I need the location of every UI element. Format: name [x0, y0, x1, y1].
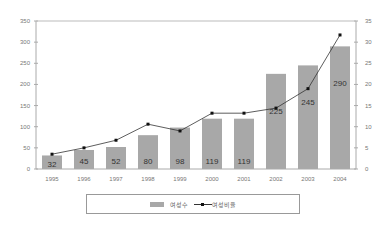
- svg-text:1996: 1996: [77, 176, 91, 182]
- left-axis: 050100150200250300350: [20, 18, 38, 172]
- svg-text:50: 50: [23, 145, 30, 151]
- bar-legend-label: 여성수: [170, 200, 188, 209]
- svg-text:250: 250: [20, 60, 31, 66]
- svg-text:0: 0: [365, 166, 369, 172]
- svg-text:80: 80: [144, 157, 153, 166]
- svg-text:1999: 1999: [173, 176, 187, 182]
- svg-text:5: 5: [365, 145, 369, 151]
- svg-text:290: 290: [333, 79, 347, 88]
- svg-text:35: 35: [365, 18, 372, 24]
- svg-text:150: 150: [20, 103, 31, 109]
- svg-text:20: 20: [365, 81, 372, 87]
- svg-text:350: 350: [20, 18, 31, 24]
- svg-text:1995: 1995: [45, 176, 59, 182]
- svg-text:100: 100: [20, 124, 31, 130]
- svg-text:2003: 2003: [301, 176, 315, 182]
- svg-text:98: 98: [176, 157, 185, 166]
- svg-text:2000: 2000: [205, 176, 219, 182]
- right-axis: 05101520253035: [354, 18, 372, 172]
- line-series: [51, 33, 342, 155]
- svg-text:10: 10: [365, 124, 372, 130]
- svg-text:25: 25: [365, 60, 372, 66]
- bar-series: 3245528098119119225245290: [42, 46, 350, 169]
- svg-text:300: 300: [20, 39, 31, 45]
- line-legend-label: 여성비율: [212, 200, 236, 209]
- x-axis-labels: 1995199619971998199920002001200220032004: [45, 176, 347, 182]
- svg-text:0: 0: [27, 166, 31, 172]
- svg-text:245: 245: [301, 98, 315, 107]
- svg-text:32: 32: [48, 160, 57, 169]
- bar: [266, 74, 286, 169]
- svg-text:119: 119: [206, 157, 219, 166]
- bar: [330, 46, 350, 169]
- svg-text:2004: 2004: [333, 176, 347, 182]
- svg-text:1997: 1997: [109, 176, 123, 182]
- svg-text:119: 119: [238, 157, 251, 166]
- svg-text:30: 30: [365, 39, 372, 45]
- bar: [298, 65, 318, 169]
- bar-legend-swatch: [150, 202, 164, 207]
- svg-text:45: 45: [80, 157, 89, 166]
- svg-text:1998: 1998: [141, 176, 155, 182]
- legend: 여성수 여성비율: [86, 194, 300, 214]
- svg-text:15: 15: [365, 103, 372, 109]
- svg-text:200: 200: [20, 81, 31, 87]
- svg-text:2002: 2002: [269, 176, 283, 182]
- svg-text:52: 52: [112, 157, 121, 166]
- line-legend-marker: [194, 202, 212, 207]
- svg-text:2001: 2001: [237, 176, 251, 182]
